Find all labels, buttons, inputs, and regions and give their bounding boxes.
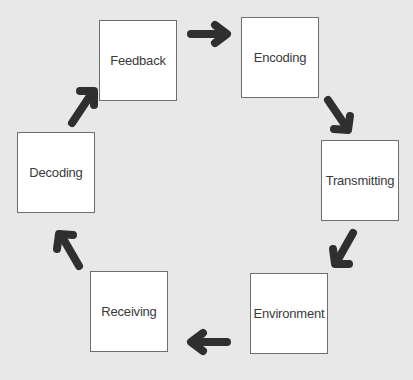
diagram-canvas: Feedback Encoding Transmitting Environme… — [0, 0, 413, 380]
node-label: Receiving — [101, 304, 156, 319]
node-encoding: Encoding — [241, 17, 319, 98]
arrow-up-right-icon — [72, 91, 94, 123]
node-label: Transmitting — [326, 173, 395, 188]
arrow-left-icon — [191, 333, 227, 351]
node-label: Feedback — [110, 53, 166, 68]
arrow-up-left-icon — [57, 234, 79, 266]
node-transmitting: Transmitting — [321, 140, 399, 221]
node-label: Decoding — [29, 165, 82, 180]
arrow-down-right-icon — [328, 100, 350, 130]
arrow-down-left-icon — [333, 233, 353, 264]
node-receiving: Receiving — [90, 271, 168, 352]
node-environment: Environment — [250, 273, 328, 354]
node-feedback: Feedback — [99, 20, 177, 101]
arrow-right-icon — [191, 25, 227, 43]
node-label: Environment — [254, 306, 325, 321]
node-label: Encoding — [254, 50, 307, 65]
node-decoding: Decoding — [17, 132, 95, 213]
